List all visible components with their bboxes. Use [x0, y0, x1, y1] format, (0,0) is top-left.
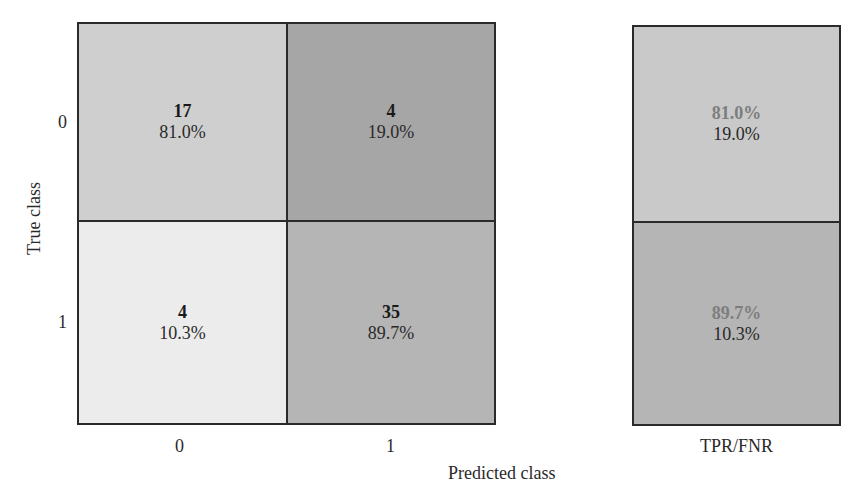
x-tick-1: 1: [386, 436, 395, 457]
grid-divider-horizontal: [79, 220, 494, 222]
x-tick-0: 0: [175, 436, 184, 457]
y-tick-0: 0: [58, 112, 67, 133]
tpr-value: 89.7%: [712, 303, 762, 324]
fnr-value: 10.3%: [713, 324, 760, 345]
cell-count: 4: [387, 101, 396, 122]
summary-x-label: TPR/FNR: [700, 436, 773, 457]
cell-count: 17: [174, 101, 192, 122]
cell-true1-pred1: 35 89.7%: [288, 222, 494, 423]
y-tick-1: 1: [58, 312, 67, 333]
tpr-fnr-summary: 81.0% 19.0% 89.7% 10.3%: [632, 25, 841, 426]
cell-count: 4: [178, 302, 187, 323]
cell-percent: 19.0%: [368, 122, 415, 143]
cell-true0-pred1: 4 19.0%: [288, 24, 494, 220]
fnr-value: 19.0%: [713, 124, 760, 145]
summary-divider: [634, 221, 839, 223]
cell-percent: 81.0%: [159, 122, 206, 143]
x-axis-label: Predicted class: [448, 463, 555, 484]
grid-divider-vertical: [286, 24, 288, 423]
cell-percent: 89.7%: [368, 323, 415, 344]
confusion-matrix: 17 81.0% 4 19.0% 4 10.3% 35 89.7%: [77, 22, 496, 425]
cell-true1-pred0: 4 10.3%: [79, 222, 286, 423]
tpr-value: 81.0%: [712, 103, 762, 124]
cell-count: 35: [382, 302, 400, 323]
y-axis-label: True class: [24, 174, 45, 264]
cell-percent: 10.3%: [159, 323, 206, 344]
summary-cell-class0: 81.0% 19.0%: [634, 27, 839, 221]
summary-cell-class1: 89.7% 10.3%: [634, 223, 839, 424]
cell-true0-pred0: 17 81.0%: [79, 24, 286, 220]
